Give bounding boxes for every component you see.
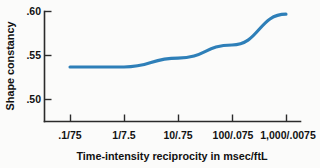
y-tick-label-60: .60 [26,5,41,17]
chart-figure: .60 .55 .50 .1/75 1/7.5 10/.75 100/.075 … [0,0,320,168]
line-chart-canvas: .60 .55 .50 .1/75 1/7.5 10/.75 100/.075 … [0,0,320,168]
x-tick-label-1: 1/7.5 [112,129,136,141]
x-tick-label-2: 10/.75 [163,129,192,141]
x-tick-label-0: .1/75 [58,129,82,141]
y-axis-ticks [45,12,52,100]
x-tick-label-4: 1,000/.0075 [260,129,316,141]
y-axis-title: Shape constancy [4,22,16,111]
x-tick-label-3: 100/.075 [213,129,254,141]
y-tick-label-50: .50 [26,93,41,105]
x-axis-ticks [71,115,287,122]
y-axis-tick-labels: .60 .55 .50 [26,5,41,105]
y-tick-label-55: .55 [26,49,41,61]
x-axis-title: Time-intensity reciprocity in msec/ftL [76,150,268,162]
data-series-line [70,14,286,67]
x-axis-tick-labels: .1/75 1/7.5 10/.75 100/.075 1,000/.0075 [58,129,316,141]
